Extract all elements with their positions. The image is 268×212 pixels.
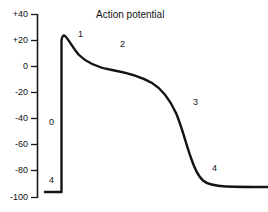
action-potential-plot bbox=[0, 0, 268, 212]
phase-label-4-resting: 4 bbox=[49, 176, 54, 185]
phase-label-4-return-to-rest: 4 bbox=[212, 164, 217, 173]
action-potential-figure: Action potential +40 +20 0 -20 -40 -60 -… bbox=[0, 0, 268, 212]
y-tick-label-40: +40 bbox=[0, 10, 28, 19]
action-potential-curve bbox=[45, 36, 268, 192]
y-tick-label-0: 0 bbox=[0, 62, 28, 71]
phase-label-3-repolarization: 3 bbox=[193, 98, 198, 107]
y-axis-group bbox=[31, 14, 38, 198]
y-tick-label-minus100: -100 bbox=[0, 193, 28, 202]
y-tick-label-minus20: -20 bbox=[0, 88, 28, 97]
y-tick-label-minus40: -40 bbox=[0, 114, 28, 123]
y-tick-label-minus60: -60 bbox=[0, 140, 28, 149]
y-tick-label-20: +20 bbox=[0, 36, 28, 45]
y-tick-label-minus80: -80 bbox=[0, 166, 28, 175]
phase-label-0-upstroke: 0 bbox=[49, 118, 54, 127]
phase-label-2-plateau: 2 bbox=[120, 40, 125, 49]
phase-label-1-early-repolarization: 1 bbox=[78, 30, 83, 39]
